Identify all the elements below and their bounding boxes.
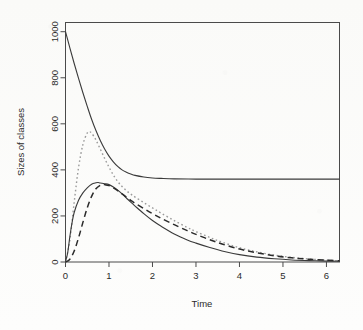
x-tick-label: 1 xyxy=(106,270,111,281)
y-tick-label: 0 xyxy=(49,259,60,264)
chart-figure: 02004006008001000 0123456 Time Sizes of … xyxy=(0,0,363,330)
y-tick-label: 200 xyxy=(49,208,60,224)
plot-frame xyxy=(66,23,340,263)
x-tick-label: 4 xyxy=(237,270,242,281)
x-tick-label: 3 xyxy=(193,270,198,281)
line-chart-plot: 02004006008001000 0123456 Time Sizes of … xyxy=(0,0,363,330)
series-line-infectious xyxy=(66,183,340,262)
series-line-exposed xyxy=(66,132,340,262)
x-tick-label: 5 xyxy=(280,270,285,281)
x-tick-label: 0 xyxy=(63,270,68,281)
x-axis-title: Time xyxy=(192,298,213,309)
plot-box xyxy=(66,23,340,263)
y-tick-label: 1000 xyxy=(49,21,60,42)
y-tick-label: 600 xyxy=(49,116,60,132)
series-line-susceptible xyxy=(66,32,340,179)
x-axis-ticks xyxy=(66,262,327,267)
x-tick-label: 2 xyxy=(150,270,155,281)
y-axis-title: Sizes of classes xyxy=(15,108,26,176)
x-tick-label: 6 xyxy=(324,270,329,281)
y-axis-tick-labels: 02004006008001000 xyxy=(49,21,60,265)
y-tick-label: 800 xyxy=(49,70,60,86)
series-line-removed xyxy=(66,185,340,262)
y-tick-label: 400 xyxy=(49,162,60,178)
y-axis-ticks xyxy=(61,32,66,262)
x-axis-tick-labels: 0123456 xyxy=(63,270,329,281)
data-series-layer xyxy=(66,32,340,262)
